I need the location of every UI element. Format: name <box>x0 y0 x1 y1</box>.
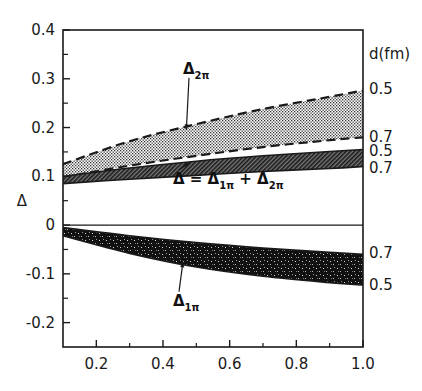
y-tick-label: 0.1 <box>31 167 55 185</box>
y-tick-label: 0.4 <box>31 21 55 39</box>
right-d-label: 0.7 <box>369 244 393 262</box>
y-tick-label: -0.2 <box>26 314 55 332</box>
y-axis-label: Δ <box>17 192 28 210</box>
chart: 0.40.30.20.10-0.1-0.20.20.40.60.81.0Δd(f… <box>0 0 422 391</box>
y-tick-label: 0 <box>45 216 55 234</box>
y-tick-label: 0.2 <box>31 119 55 137</box>
band-fill-2 <box>63 228 363 286</box>
arrow-line <box>186 78 189 130</box>
right-d-label: 0.5 <box>369 80 393 98</box>
y-tick-label: 0.3 <box>31 70 55 88</box>
x-tick-label: 0.4 <box>151 355 175 373</box>
x-tick-label: 1.0 <box>351 355 375 373</box>
right-d-label: 0.7 <box>369 159 393 177</box>
x-tick-label: 0.8 <box>284 355 308 373</box>
band-label: Δ2π <box>183 60 210 81</box>
right-d-label: 0.5 <box>369 142 393 160</box>
band-label: Δ1π <box>173 292 200 313</box>
right-d-label: 0.5 <box>369 276 393 294</box>
tick-labels: 0.40.30.20.10-0.1-0.20.20.40.60.81.0Δd(f… <box>17 21 410 373</box>
y-tick-label: -0.1 <box>26 265 55 283</box>
right-axis-title: d(fm) <box>369 45 410 63</box>
x-tick-label: 0.2 <box>84 355 108 373</box>
plot-frame <box>63 30 363 347</box>
axes <box>63 30 363 347</box>
data-bands <box>63 90 363 285</box>
x-tick-label: 0.6 <box>218 355 242 373</box>
